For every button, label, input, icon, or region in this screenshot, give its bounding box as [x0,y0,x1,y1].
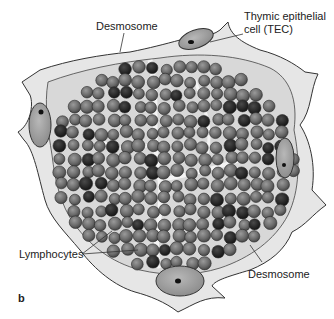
label-tec-line2: cell (TEC) [244,23,293,35]
label-lymphocytes: Lymphocytes [19,248,83,260]
label-desmosome-bottom: Desmosome [248,268,310,280]
label-desmosome-top: Desmosome [96,20,158,32]
panel-letter: b [18,292,25,304]
figure-panel: Desmosome Thymic epithelial cell (TEC) L… [0,0,334,319]
label-tec-line1: Thymic epithelial [244,10,326,22]
